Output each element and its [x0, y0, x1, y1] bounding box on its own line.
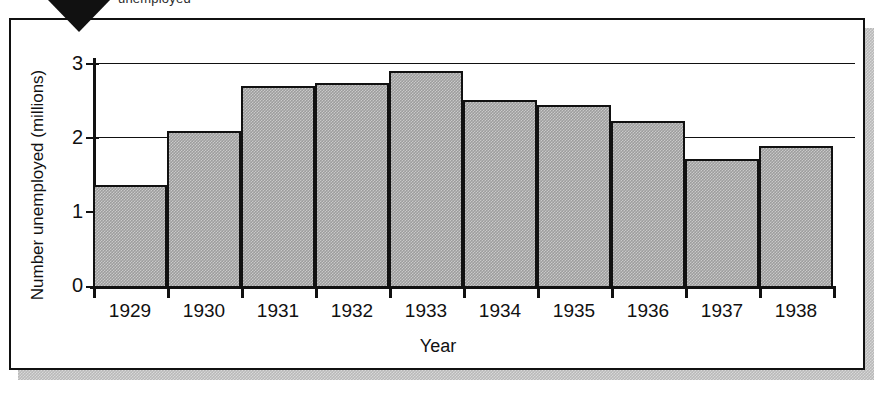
- x-tick-mark-3: [315, 287, 318, 298]
- bar-1930: [167, 131, 241, 288]
- bar-1935: [537, 105, 611, 288]
- y-tick-label-3: 3: [57, 52, 83, 75]
- bar-1931: [241, 86, 315, 288]
- y-tick-label-1: 1: [57, 200, 83, 223]
- gridline-3: [93, 63, 855, 64]
- x-tick-label-1937: 1937: [685, 300, 759, 322]
- x-tick-mark-6: [537, 287, 540, 298]
- x-tick-label-1938: 1938: [759, 300, 833, 322]
- bar-1934: [463, 100, 537, 288]
- x-tick-mark-5: [463, 287, 466, 298]
- x-tick-mark-2: [241, 287, 244, 298]
- bar-1929: [93, 185, 167, 288]
- y-tick-label-2: 2: [57, 126, 83, 149]
- y-tick-label-0: 0: [57, 274, 83, 297]
- x-tick-label-1934: 1934: [463, 300, 537, 322]
- x-tick-mark-9: [759, 287, 762, 298]
- x-tick-mark-8: [685, 287, 688, 298]
- bar-1938: [759, 146, 833, 288]
- x-tick-label-1932: 1932: [315, 300, 389, 322]
- bar-1932: [315, 83, 389, 288]
- x-tick-label-1929: 1929: [93, 300, 167, 322]
- x-tick-mark-10: [833, 287, 836, 298]
- y-axis-title: Number unemployed (millions): [28, 55, 48, 315]
- x-tick-label-1936: 1936: [611, 300, 685, 322]
- x-tick-label-1933: 1933: [389, 300, 463, 322]
- x-tick-mark-0: [93, 287, 96, 298]
- x-tick-label-1930: 1930: [167, 300, 241, 322]
- bar-chart-plot: Number unemployed (millions) 3 2 1 0: [0, 0, 876, 394]
- x-axis-title: Year: [0, 336, 876, 357]
- bar-1936: [611, 121, 685, 288]
- bar-1933: [389, 71, 463, 288]
- x-tick-label-1935: 1935: [537, 300, 611, 322]
- bar-1937: [685, 159, 759, 288]
- x-tick-mark-1: [167, 287, 170, 298]
- x-tick-label-1931: 1931: [241, 300, 315, 322]
- x-tick-mark-7: [611, 287, 614, 298]
- figure-page: unemployed Number unemployed (millions) …: [0, 0, 876, 394]
- x-tick-mark-4: [389, 287, 392, 298]
